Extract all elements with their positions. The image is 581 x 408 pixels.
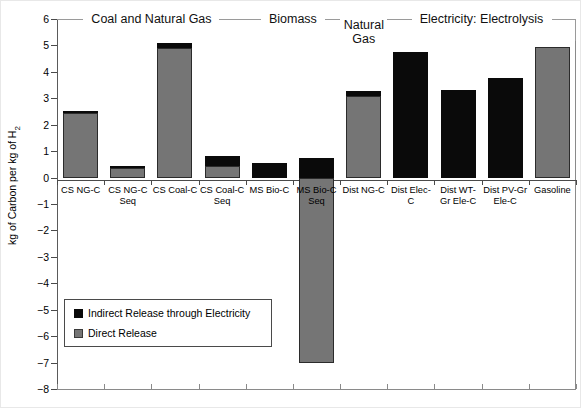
x-category-label: Dist PV-GrEle-C (482, 185, 529, 207)
x-category-label-line: Ele-C (482, 196, 529, 207)
y-tick-label: −5 (3, 305, 49, 315)
group-label: Biomass (269, 12, 317, 26)
group-label: Coal and Natural Gas (91, 12, 211, 26)
bar-segment (157, 48, 192, 178)
x-tick-mark (576, 180, 577, 185)
figure-root: kg of Carbon per kg of H2 6543210−1−2−3−… (0, 0, 581, 408)
x-tick-mark-bottom (104, 384, 105, 389)
y-tick-label: 4 (3, 67, 49, 77)
group-bracket-end-tick (575, 19, 576, 41)
y-tick-label: −4 (3, 278, 49, 288)
x-category-label-line: C (387, 196, 434, 207)
legend-entry-direct: Direct Release (74, 328, 157, 339)
x-tick-mark-bottom (529, 384, 530, 389)
group-label: NaturalGas (344, 18, 384, 46)
group-label-line: Gas (344, 32, 384, 46)
x-category-label: Dist NG-C (340, 185, 387, 196)
y-tick-label: 0 (3, 173, 49, 183)
x-category-label: MS Bio-CSeq (293, 185, 340, 207)
y-axis-line (57, 19, 58, 389)
x-tick-mark-bottom (340, 384, 341, 389)
y-tick-label: −2 (3, 225, 49, 235)
bar-segment (346, 91, 381, 95)
x-category-label-line: Dist Elec- (387, 185, 434, 196)
x-category-label: Dist Elec-C (387, 185, 434, 207)
group-bracket-line (57, 19, 83, 20)
bar-segment (299, 158, 334, 178)
bar-segment (488, 78, 523, 177)
x-category-label-line: Gasoline (529, 185, 576, 196)
y-tick-label: 2 (3, 120, 49, 130)
bar-segment (535, 47, 570, 178)
y-tick-label: 3 (3, 93, 49, 103)
y-tick-label: −8 (3, 384, 49, 394)
bar-segment (252, 163, 287, 178)
x-category-label-line: Dist WT- (434, 185, 481, 196)
y-tick-label: −7 (3, 358, 49, 368)
group-label: Electricity: Electrolysis (420, 12, 544, 26)
bar-segment (393, 52, 428, 178)
bar-segment (63, 111, 98, 113)
group-label-line: Coal and Natural Gas (91, 12, 211, 26)
x-tick-mark-bottom (434, 384, 435, 389)
x-category-label-line: CS NG-C (57, 185, 104, 196)
x-category-label: Gasoline (529, 185, 576, 196)
group-bracket-line (325, 19, 340, 20)
x-tick-mark-bottom (293, 384, 294, 389)
legend-label-direct: Direct Release (88, 328, 157, 339)
bar-segment (157, 43, 192, 48)
y-axis-title: kg of Carbon per kg of H2 (6, 76, 21, 296)
bar-segment (110, 166, 145, 168)
x-category-label-line: Seq (104, 196, 151, 207)
group-label-line: Electricity: Electrolysis (420, 12, 544, 26)
legend-entry-indirect: Indirect Release through Electricity (74, 308, 250, 319)
x-tick-mark-bottom (57, 384, 58, 389)
x-category-label-line: Dist PV-Gr (482, 185, 529, 196)
x-category-label: CS NG-CSeq (104, 185, 151, 207)
x-category-label: Dist WT-Gr Ele-C (434, 185, 481, 207)
x-tick-mark-bottom (199, 384, 200, 389)
x-category-label: MS Bio-C (246, 185, 293, 196)
y-tick-label: 1 (3, 146, 49, 156)
legend-label-indirect: Indirect Release through Electricity (88, 308, 250, 319)
group-label-line: Biomass (269, 12, 317, 26)
y-tick-label: −1 (3, 199, 49, 209)
x-category-label-line: MS Bio-C (246, 185, 293, 196)
x-category-label: CS Coal-CSeq (199, 185, 246, 207)
group-label-line: Natural (344, 18, 384, 32)
bar-segment (441, 90, 476, 177)
x-category-label-line: CS Coal-C (151, 185, 198, 196)
group-bracket-line (552, 19, 576, 20)
legend-swatch-indirect-icon (74, 309, 83, 318)
x-tick-mark-bottom (576, 384, 577, 389)
plot-bottom-border (57, 389, 576, 390)
x-tick-mark-bottom (151, 384, 152, 389)
legend-swatch-direct-icon (74, 329, 83, 338)
bar-segment (205, 166, 240, 178)
x-category-label-line: Seq (199, 196, 246, 207)
y-tick-label: −6 (3, 331, 49, 341)
plot-right-border (575, 19, 576, 389)
x-category-label: CS Coal-C (151, 185, 198, 196)
legend: Indirect Release through Electricity Dir… (64, 299, 272, 347)
x-tick-mark-bottom (482, 384, 483, 389)
y-tick-label: 6 (3, 14, 49, 24)
x-category-label: CS NG-C (57, 185, 104, 196)
x-category-label-line: Gr Ele-C (434, 196, 481, 207)
bar-segment (346, 96, 381, 178)
x-category-label-line: CS Coal-C (199, 185, 246, 196)
x-category-label-line: CS NG-C (104, 185, 151, 196)
group-bracket-line (246, 19, 261, 20)
bar-segment (110, 168, 145, 178)
group-bracket-line (387, 19, 411, 20)
x-category-label-line: Dist NG-C (340, 185, 387, 196)
x-category-label-line: MS Bio-C (293, 185, 340, 196)
bar-segment (205, 156, 240, 165)
y-tick-label: −3 (3, 252, 49, 262)
group-bracket-line (219, 19, 245, 20)
y-tick-label: 5 (3, 40, 49, 50)
x-category-label-line: Seq (293, 196, 340, 207)
x-tick-mark-bottom (246, 384, 247, 389)
x-tick-mark-bottom (387, 384, 388, 389)
bar-segment (63, 113, 98, 178)
